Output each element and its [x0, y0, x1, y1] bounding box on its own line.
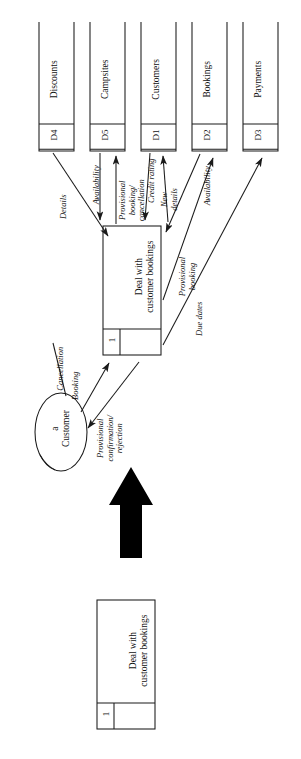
flow-label-details: Details [59, 179, 69, 235]
pb-line2: booking [187, 263, 197, 290]
nd-line1: New [159, 192, 169, 207]
detail-process-name: Deal withcustomer bookings [128, 603, 149, 699]
data-store-d4-id: D4 [49, 121, 59, 149]
external-entity-line1: a [50, 427, 60, 431]
flow-label-credit-rating: Credit rating [147, 148, 157, 214]
flow-label-cancellation: Cancellation [56, 336, 66, 402]
data-store-d5-id: D5 [100, 121, 110, 149]
pcr-line3: rejection [114, 423, 124, 453]
data-store-d3-id: D3 [253, 121, 263, 149]
diagram-canvas: D4 Discounts D5 Campsites D1 Customers D… [0, 0, 301, 759]
process-1-name-line2: customer bookings [145, 241, 155, 313]
external-entity-line2: Customer [61, 410, 71, 447]
data-store-d2-name: Bookings [202, 50, 213, 108]
pcr-line2: confirmation/ [104, 415, 114, 461]
detail-process-name-line2: customer bookings [139, 615, 149, 687]
detail-process-id: 1 [101, 700, 111, 728]
pb-line1: Provisional [177, 257, 187, 296]
flow-label-new-details: Newdetails [160, 175, 179, 225]
data-store-d4-name: Discounts [49, 50, 60, 108]
data-store-d1-id: D1 [151, 121, 161, 149]
data-store-d5-name: Campsites [100, 50, 111, 108]
data-store-d1-name: Customers [151, 50, 162, 108]
dfd-vector-layer [0, 0, 301, 759]
pbc-line3: cancellation [136, 179, 146, 221]
process-1-name: Deal withcustomer bookings [134, 229, 155, 325]
data-store-d3-name: Payments [253, 50, 264, 108]
detail-process-name-line1: Deal with [128, 632, 138, 669]
pbc-line1: Provisional [117, 181, 127, 220]
flow-label-availability-d2: Availability [203, 153, 213, 219]
flow-label-booking: Booking [71, 358, 81, 414]
nd-line2: details [169, 188, 179, 211]
flow-label-availability-d5: Availability [92, 152, 102, 218]
process-1-id: 1 [107, 326, 117, 354]
pbc-line2: booking/ [126, 185, 136, 215]
process-1-name-line1: Deal with [134, 258, 144, 295]
flow-label-provisional-booking-cancellation: Provisionalbooking/cancellation [118, 162, 147, 238]
pcr-line1: Provisional [95, 419, 105, 458]
external-entity-customer-label: aCustomer [50, 399, 71, 459]
flow-label-due-dates: Due dates [195, 289, 205, 349]
data-store-d2-id: D2 [202, 121, 212, 149]
flow-label-provisional-confirmation-rejection: Provisionalconfirmation/rejection [96, 393, 125, 483]
